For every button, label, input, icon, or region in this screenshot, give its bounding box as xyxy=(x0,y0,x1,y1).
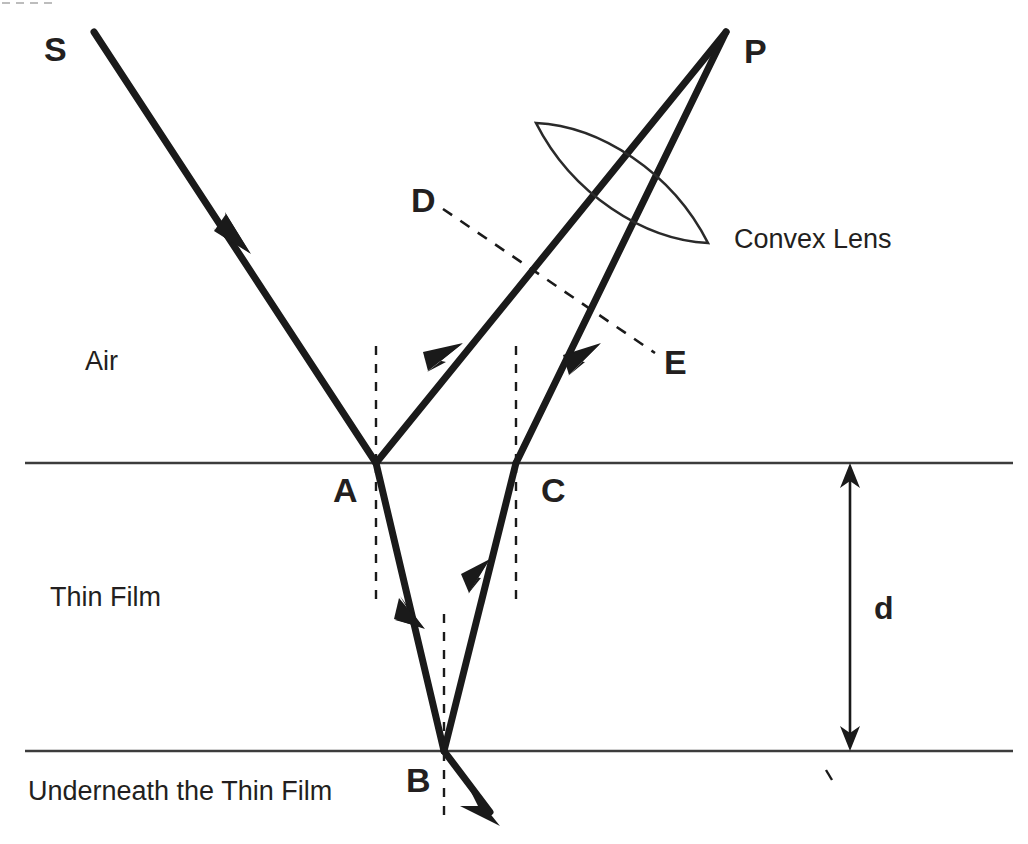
label-point-d: D xyxy=(411,183,436,217)
thickness-dimension xyxy=(840,463,860,751)
arrowhead-transmitted-ray xyxy=(460,786,500,826)
thin-film-diagram: S P D E A C B Air Thin Film Underneath t… xyxy=(0,0,1028,844)
label-point-a: A xyxy=(333,473,358,507)
refracted-ray-a-to-b xyxy=(376,463,444,751)
label-region-air: Air xyxy=(85,348,118,375)
label-region-underneath: Underneath the Thin Film xyxy=(28,778,332,805)
stray-tick-mark xyxy=(826,770,832,780)
label-thickness-d: d xyxy=(874,592,894,624)
label-point-e: E xyxy=(664,345,687,379)
transmitted-ray-below-b xyxy=(444,751,490,812)
label-point-b: B xyxy=(406,763,431,797)
label-point-s: S xyxy=(44,32,67,66)
ray-diagram-canvas xyxy=(0,0,1028,844)
incident-ray-s-to-a xyxy=(94,32,376,463)
label-point-c: C xyxy=(541,473,566,507)
wavefront-line-de xyxy=(443,209,655,353)
label-convex-lens: Convex Lens xyxy=(734,226,892,253)
label-point-p: P xyxy=(744,34,767,68)
internal-reflected-ray-b-to-c xyxy=(444,463,516,751)
label-region-thin-film: Thin Film xyxy=(50,584,161,611)
convex-lens-shape xyxy=(536,123,708,243)
